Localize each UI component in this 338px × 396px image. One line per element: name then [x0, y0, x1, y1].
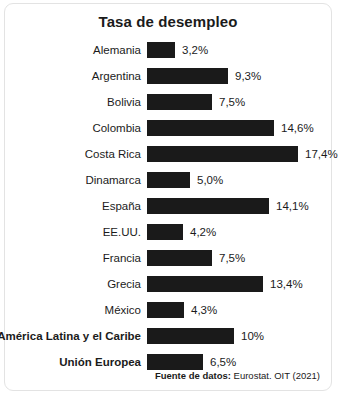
bar-chart-rows: Alemania3,2%Argentina9,3%Bolivia7,5%Colo… [5, 37, 331, 375]
bar-value-label: 5,0% [197, 174, 223, 186]
bar-row: América Latina y el Caribe10% [5, 323, 331, 349]
bar-value-label: 13,4% [270, 278, 303, 290]
bar-track: 7,5% [147, 250, 325, 266]
bar-track: 14,6% [147, 120, 325, 136]
bar-row: Bolivia7,5% [5, 89, 331, 115]
bar-category-label: Bolivia [107, 96, 141, 108]
bar-track: 10% [147, 328, 325, 344]
bar-value-label: 4,2% [190, 226, 216, 238]
source-text: Eurostat. OIT (2021) [231, 370, 320, 381]
bar-track: 9,3% [147, 68, 325, 84]
bar-value-label: 17,4% [305, 148, 338, 160]
bar [147, 328, 234, 344]
bar-row: México4,3% [5, 297, 331, 323]
bar-category-label: EE.UU. [103, 226, 141, 238]
bar-row: Grecia13,4% [5, 271, 331, 297]
bar-category-label: Dinamarca [85, 174, 141, 186]
bar-value-label: 14,6% [281, 122, 314, 134]
bar-value-label: 14,1% [276, 200, 309, 212]
bar-row: Alemania3,2% [5, 37, 331, 63]
bar-row: España14,1% [5, 193, 331, 219]
bar-category-label: Francia [103, 252, 141, 264]
bar [147, 354, 203, 370]
bar [147, 276, 263, 292]
chart-title: Tasa de desempleo [5, 13, 331, 30]
bar [147, 146, 298, 162]
bar-value-label: 6,5% [210, 356, 236, 368]
bar-track: 13,4% [147, 276, 325, 292]
bar-row: Colombia14,6% [5, 115, 331, 141]
source-label: Fuente de datos: [155, 370, 231, 381]
bar [147, 224, 183, 240]
bar-row: Francia7,5% [5, 245, 331, 271]
bar-track: 4,3% [147, 302, 325, 318]
bar-category-label: Argentina [92, 70, 141, 82]
source-note: Fuente de datos: Eurostat. OIT (2021) [155, 370, 320, 381]
bar-value-label: 9,3% [235, 70, 261, 82]
bar-value-label: 7,5% [219, 252, 245, 264]
bar-row: Dinamarca5,0% [5, 167, 331, 193]
bar-category-label: Unión Europea [59, 356, 141, 368]
bar-category-label: México [105, 304, 141, 316]
bar-value-label: 4,3% [191, 304, 217, 316]
bar-category-label: Alemania [93, 44, 141, 56]
bar [147, 302, 184, 318]
bar [147, 250, 212, 266]
bar-track: 7,5% [147, 94, 325, 110]
bar-category-label: Grecia [107, 278, 141, 290]
bar-track: 4,2% [147, 224, 325, 240]
chart-card: Tasa de desempleo Alemania3,2%Argentina9… [4, 3, 332, 391]
bar-row: Argentina9,3% [5, 63, 331, 89]
bar-track: 6,5% [147, 354, 325, 370]
bar [147, 198, 269, 214]
bar-value-label: 10% [241, 330, 264, 342]
bar-track: 3,2% [147, 42, 325, 58]
bar [147, 42, 175, 58]
bar [147, 94, 212, 110]
bar-track: 14,1% [147, 198, 325, 214]
bar-category-label: Colombia [92, 122, 141, 134]
bar-value-label: 3,2% [182, 44, 208, 56]
bar-category-label: España [102, 200, 141, 212]
bar-track: 5,0% [147, 172, 325, 188]
bar-category-label: Costa Rica [85, 148, 141, 160]
bar [147, 172, 190, 188]
bar-row: EE.UU.4,2% [5, 219, 331, 245]
bar-track: 17,4% [147, 146, 325, 162]
bar-value-label: 7,5% [219, 96, 245, 108]
bar-row: Costa Rica17,4% [5, 141, 331, 167]
bar [147, 120, 274, 136]
bar-category-label: América Latina y el Caribe [0, 330, 141, 342]
bar [147, 68, 228, 84]
